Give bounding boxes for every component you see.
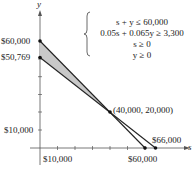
x-axis-label: s	[188, 143, 192, 152]
point-y60000	[38, 39, 42, 43]
label-y60000: $60,000	[1, 37, 30, 46]
point-x60000	[143, 146, 147, 150]
constraint-4: y ≥ 0	[92, 50, 192, 61]
label-x66000: $66,000	[152, 136, 181, 145]
point-vertex	[108, 110, 112, 114]
line-interest	[40, 58, 156, 149]
constraint-2: 0.05s + 0.065y ≥ 3,300	[92, 28, 192, 39]
label-x10000: $10,000	[43, 155, 72, 164]
y-axis-arrow-icon	[38, 10, 42, 16]
y-axis-label: y	[37, 0, 41, 9]
constraint-1: s + y ≤ 60,000	[92, 17, 192, 28]
point-x66000	[154, 146, 158, 150]
label-vertex: (40,000, 20,000)	[113, 106, 173, 115]
label-y50769: $50,769	[1, 53, 30, 62]
constraint-3: s ≥ 0	[92, 39, 192, 50]
point-y50769	[38, 56, 42, 60]
label-x60000: $60,000	[128, 155, 157, 164]
brace-icon	[84, 12, 90, 56]
label-y10000: $10,000	[4, 126, 33, 135]
constraint-system: s + y ≤ 60,000 0.05s + 0.065y ≥ 3,300 s …	[92, 17, 192, 61]
